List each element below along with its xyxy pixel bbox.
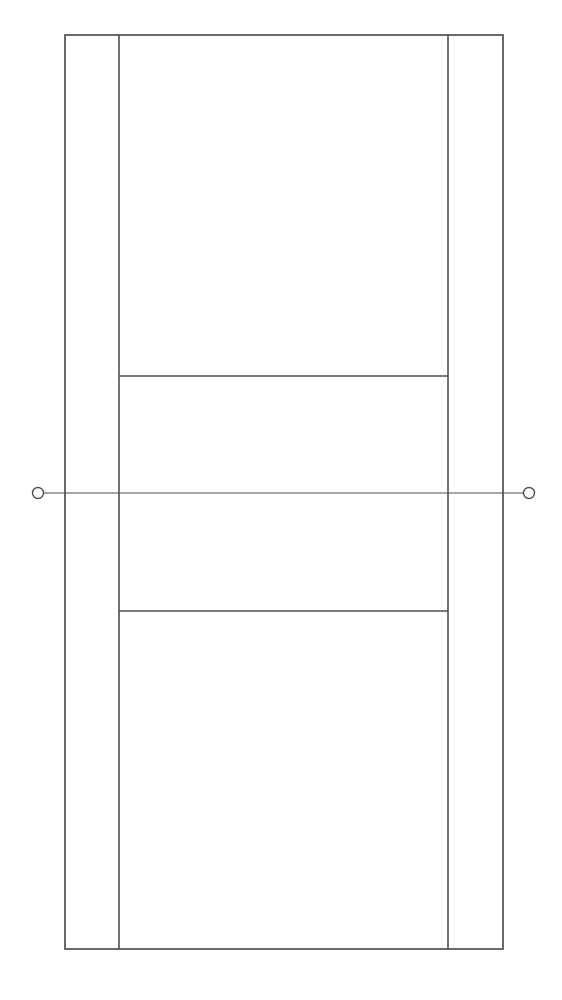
net-post-right-icon (524, 488, 535, 499)
tennis-court-diagram (0, 0, 562, 1000)
court-canvas (0, 0, 562, 1000)
net-post-left-icon (33, 488, 44, 499)
outer-boundary (65, 35, 503, 949)
